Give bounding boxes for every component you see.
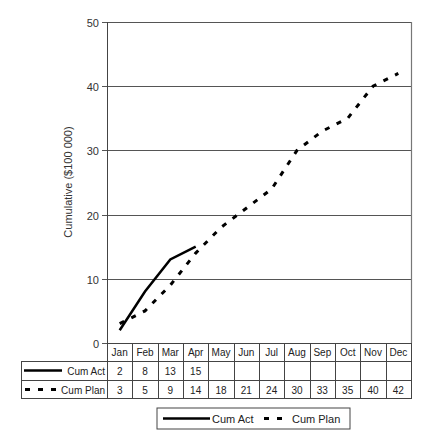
y-axis-ticks: 01020304050 [87, 17, 107, 350]
y-tick-label: 40 [87, 81, 99, 93]
category-label: Jul [265, 347, 278, 358]
y-tick-label: 50 [87, 17, 99, 29]
cum-plan-line [120, 73, 399, 323]
plot-frame [108, 22, 412, 361]
y-tick-label: 30 [87, 145, 99, 157]
category-label: May [212, 347, 231, 358]
data-table: JanFebMarAprMayJunJulAugSepOctNovDecCum … [21, 343, 412, 399]
category-label: Jan [112, 347, 128, 358]
category-label: Mar [162, 347, 180, 358]
category-label: Aug [288, 347, 306, 358]
table-cell: 42 [393, 385, 405, 396]
series-lines [120, 73, 399, 330]
category-label: Oct [340, 347, 356, 358]
category-label: Jun [238, 347, 254, 358]
chart: 01020304050 Cumulative ($100 000) JanFeb… [0, 0, 425, 442]
table-cell: 5 [142, 385, 148, 396]
table-cell: 8 [142, 366, 148, 377]
category-label: Apr [188, 347, 204, 358]
legend-label-cum-act: Cum Act [212, 413, 254, 425]
table-cell: 3 [117, 385, 123, 396]
y-tick-label: 10 [87, 274, 99, 286]
table-cell: 33 [317, 385, 329, 396]
table-cell: 9 [168, 385, 174, 396]
table-row-label: Cum Act [67, 366, 105, 377]
cum-act-line [120, 247, 196, 331]
gridlines [107, 23, 411, 280]
category-label: Nov [364, 347, 382, 358]
table-cell: 13 [165, 366, 177, 377]
table-cell: 35 [342, 385, 354, 396]
table-cell: 21 [241, 385, 253, 396]
y-axis-title: Cumulative ($100 000) [62, 126, 74, 237]
category-label: Dec [389, 347, 407, 358]
category-label: Sep [313, 347, 331, 358]
y-tick-label: 20 [87, 210, 99, 222]
table-cell: 18 [215, 385, 227, 396]
table-cell: 14 [190, 385, 202, 396]
table-cell: 15 [190, 366, 202, 377]
category-label: Feb [136, 347, 154, 358]
y-tick-label: 0 [93, 338, 99, 350]
table-cell: 40 [367, 385, 379, 396]
table-row-label: Cum Plan [61, 385, 105, 396]
table-cell: 30 [291, 385, 303, 396]
legend: Cum Act Cum Plan [157, 408, 350, 429]
table-cell: 24 [266, 385, 278, 396]
table-cell: 2 [117, 366, 123, 377]
legend-label-cum-plan: Cum Plan [292, 413, 340, 425]
